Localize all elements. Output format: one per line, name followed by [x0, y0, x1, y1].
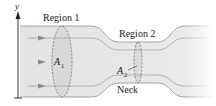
- y-axis-label: y: [14, 1, 19, 11]
- region-1-label: Region 1: [43, 12, 79, 23]
- area-1-label: A: [53, 56, 61, 67]
- area-2-label: A: [116, 65, 124, 76]
- area-1-subscript: 1: [61, 62, 64, 69]
- area-2-subscript: 2: [124, 71, 127, 78]
- cross-section-a2: [134, 42, 142, 83]
- flow-diagram: y Region 1 Region 2 A 1 A 2 Neck: [0, 0, 216, 106]
- y-axis-arrow-icon: [16, 11, 21, 19]
- neck-label: Neck: [117, 84, 138, 95]
- region-2-label: Region 2: [119, 28, 155, 39]
